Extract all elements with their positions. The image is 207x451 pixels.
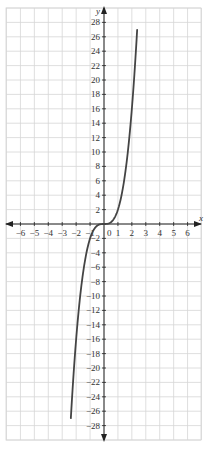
- y-tick-label: −24: [86, 392, 101, 402]
- x-tick-label: −6: [16, 228, 26, 238]
- y-tick-label: 18: [91, 89, 101, 99]
- x-tick-label: 1: [116, 228, 121, 238]
- y-tick-label: 28: [91, 17, 101, 27]
- x-tick-label: −5: [30, 228, 40, 238]
- y-tick-label: −26: [86, 406, 101, 416]
- x-tick-label: −2: [71, 228, 81, 238]
- y-tick-label: 16: [91, 104, 101, 114]
- y-tick-label: −14: [86, 320, 101, 330]
- y-tick-label: −22: [86, 377, 100, 387]
- x-tick-label: 3: [144, 228, 149, 238]
- y-tick-label: 10: [91, 147, 101, 157]
- y-tick-label: −16: [86, 334, 101, 344]
- x-tick-label: −3: [57, 228, 67, 238]
- x-tick-label: 2: [130, 228, 135, 238]
- y-tick-label: 20: [91, 75, 101, 85]
- y-tick-label: −8: [90, 277, 100, 287]
- x-tick-label: 4: [157, 228, 162, 238]
- origin-label: 0: [107, 228, 112, 238]
- y-tick-label: 4: [96, 190, 101, 200]
- x-tick-label: −4: [43, 228, 53, 238]
- y-tick-label: −28: [86, 421, 101, 431]
- y-tick-label: −20: [86, 363, 101, 373]
- x-axis-label: x: [198, 213, 203, 223]
- y-tick-label: 26: [91, 32, 101, 42]
- y-tick-label: 14: [91, 118, 101, 128]
- x-tick-label: 6: [185, 228, 190, 238]
- y-tick-label: 2: [96, 205, 101, 215]
- y-tick-label: 8: [96, 161, 101, 171]
- y-tick-label: −6: [90, 262, 100, 272]
- y-tick-label: −10: [86, 291, 101, 301]
- y-tick-label: −4: [90, 248, 100, 258]
- y-tick-label: 12: [91, 133, 100, 143]
- cubic-function-graph: −6−5−4−3−2−1123456−28−26−24−22−20−18−16−…: [0, 0, 207, 451]
- x-tick-label: 5: [171, 228, 176, 238]
- y-tick-label: −18: [86, 349, 101, 359]
- y-tick-label: −12: [86, 305, 100, 315]
- y-axis-label: y: [95, 6, 100, 16]
- y-tick-label: 6: [96, 176, 101, 186]
- y-tick-label: 22: [91, 61, 100, 71]
- y-tick-label: 24: [91, 46, 101, 56]
